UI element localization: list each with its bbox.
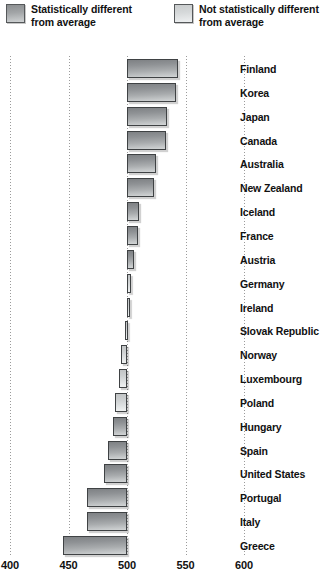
category-label-greece: Greece xyxy=(240,540,275,552)
chart-plot-area: FinlandKoreaJapanCanadaAustraliaNew Zeal… xyxy=(0,50,324,560)
bar-italy xyxy=(87,512,127,531)
category-label-poland: Poland xyxy=(240,397,274,409)
x-tick-550: 550 xyxy=(177,559,195,571)
x-tick-600: 600 xyxy=(235,559,253,571)
category-label-slovak-republic: Slovak Republic xyxy=(240,325,319,337)
bar-finland xyxy=(127,59,178,78)
bar-portugal xyxy=(87,488,127,507)
x-tick-400: 400 xyxy=(1,559,19,571)
category-label-italy: Italy xyxy=(240,516,260,528)
category-label-japan: Japan xyxy=(240,111,270,123)
category-label-spain: Spain xyxy=(240,445,268,457)
bar-slovak-republic xyxy=(125,321,128,340)
category-label-korea: Korea xyxy=(240,87,269,99)
legend-label-statistically-different: Statistically different from average xyxy=(31,3,132,28)
bar-luxembourg xyxy=(119,369,127,388)
bar-ireland xyxy=(127,298,130,317)
bar-australia xyxy=(127,154,156,173)
x-tick-500: 500 xyxy=(118,559,136,571)
bar-canada xyxy=(127,131,166,150)
category-label-luxembourg: Luxembourg xyxy=(240,373,302,385)
category-label-canada: Canada xyxy=(240,135,277,147)
legend-label-not-statistically-different: Not statistically different from average xyxy=(199,3,319,28)
category-label-australia: Australia xyxy=(240,158,284,170)
bar-united-states xyxy=(104,464,127,483)
bar-new-zealand xyxy=(127,178,154,197)
chart-category-labels: FinlandKoreaJapanCanadaAustraliaNew Zeal… xyxy=(240,50,324,555)
legend-swatch-dark-icon xyxy=(6,4,25,23)
bar-japan xyxy=(127,107,167,126)
bar-greece xyxy=(63,536,127,555)
legend-item-statistically-different: Statistically different from average xyxy=(6,3,132,28)
legend-swatch-light-icon xyxy=(174,4,193,23)
chart-legend: Statistically different from average Not… xyxy=(0,0,324,50)
bar-poland xyxy=(115,393,127,412)
bar-hungary xyxy=(113,417,127,436)
category-label-united-states: United States xyxy=(240,468,305,480)
category-label-finland: Finland xyxy=(240,63,276,75)
bar-austria xyxy=(127,250,134,269)
bar-france xyxy=(127,226,138,245)
category-label-iceland: Iceland xyxy=(240,206,275,218)
category-label-norway: Norway xyxy=(240,349,277,361)
x-tick-450: 450 xyxy=(60,559,78,571)
category-label-new-zealand: New Zealand xyxy=(240,182,303,194)
category-label-hungary: Hungary xyxy=(240,421,282,433)
bar-germany xyxy=(127,274,131,293)
bar-norway xyxy=(121,345,127,364)
category-label-germany: Germany xyxy=(240,278,284,290)
legend-item-not-statistically-different: Not statistically different from average xyxy=(174,3,319,28)
category-label-austria: Austria xyxy=(240,254,275,266)
category-label-portugal: Portugal xyxy=(240,492,281,504)
chart-x-axis: 400450500550600 xyxy=(0,555,324,584)
category-label-ireland: Ireland xyxy=(240,302,273,314)
chart-bars xyxy=(0,50,232,555)
category-label-france: France xyxy=(240,230,274,242)
bar-spain xyxy=(108,441,127,460)
bar-iceland xyxy=(127,202,139,221)
bar-korea xyxy=(127,83,176,102)
